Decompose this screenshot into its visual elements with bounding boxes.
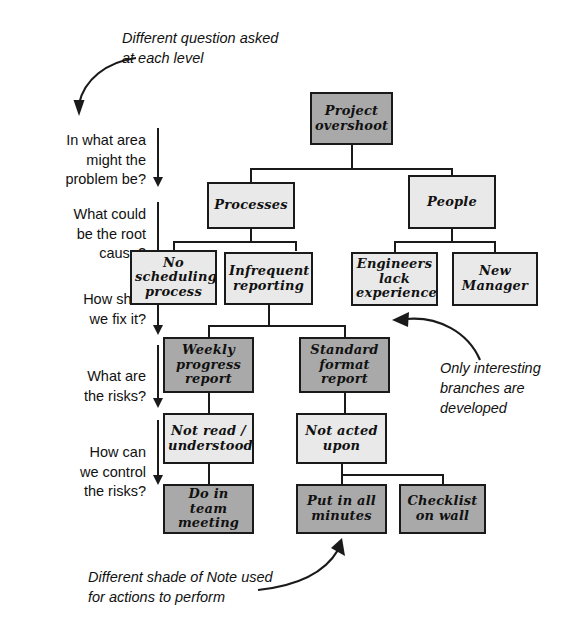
- node-label: Engineers lack experience: [356, 257, 433, 301]
- question-label-4: What are the risks?: [18, 367, 146, 406]
- node-put-in-all-minutes[interactable]: Put in all minutes: [296, 484, 387, 534]
- connector-people-stem: [451, 228, 453, 242]
- connector-weekly-to-notread: [208, 392, 210, 414]
- connector-standard-to-notacted: [344, 392, 346, 414]
- node-do-in-team-meeting[interactable]: Do in team meeting: [163, 484, 254, 534]
- node-label: Infrequent reporting: [229, 264, 308, 293]
- node-project-overshoot[interactable]: Project overshoot: [310, 92, 393, 145]
- node-not-read-understood[interactable]: Not read / understood: [163, 413, 254, 464]
- question-label-3: How shall we fix it?: [18, 290, 146, 329]
- node-no-scheduling-process[interactable]: No scheduling process: [130, 250, 217, 305]
- node-label: Project overshoot: [315, 104, 388, 133]
- node-standard-format-report[interactable]: Standard format report: [299, 337, 390, 393]
- node-label: Not acted upon: [301, 424, 382, 453]
- connector-to-putinall: [341, 474, 343, 484]
- node-new-manager[interactable]: New Manager: [452, 252, 538, 306]
- node-people[interactable]: People: [408, 175, 496, 229]
- connector-processes-stem: [250, 228, 252, 242]
- question-label-5: How can we control the risks?: [18, 443, 146, 502]
- node-label: Put in all minutes: [301, 494, 382, 523]
- annotation-only-interesting-branches: Only interesting branches are developed: [440, 358, 564, 418]
- annotation-different-question: Different question asked at each level: [122, 28, 278, 68]
- annotation-different-shade-of-note: Different shade of Note used for actions…: [88, 567, 338, 607]
- node-not-acted-upon[interactable]: Not acted upon: [296, 413, 387, 464]
- node-engineers-lack-experience[interactable]: Engineers lack experience: [351, 252, 438, 306]
- node-label: Checklist on wall: [404, 494, 481, 523]
- connector-fix-bus: [208, 325, 345, 327]
- connector-to-processes: [250, 168, 252, 182]
- connector-control-bus: [341, 474, 444, 476]
- connector-processes-bus: [173, 241, 297, 243]
- connector-notread-to-doin: [208, 463, 210, 484]
- connector-root-stem: [351, 145, 353, 169]
- node-infrequent-reporting[interactable]: Infrequent reporting: [224, 252, 313, 305]
- connector-level2-bus: [250, 168, 453, 170]
- node-label: New Manager: [457, 264, 533, 293]
- connector-to-new-manager: [494, 241, 496, 252]
- node-label: Standard format report: [304, 343, 385, 387]
- node-label: No scheduling process: [135, 256, 212, 300]
- diagram-canvas: Different question asked at each level I…: [0, 0, 564, 630]
- node-weekly-progress-report[interactable]: Weekly progress report: [163, 337, 254, 393]
- connector-infrequent-stem: [268, 305, 270, 326]
- node-label: Not read / understood: [168, 424, 249, 453]
- question-arrow-5: [157, 420, 159, 476]
- question-label-1: In what area might the problem be?: [18, 131, 146, 190]
- question-label-2: What could be the root cause?: [18, 205, 146, 264]
- question-arrow-4: [157, 345, 159, 399]
- node-checklist-on-wall[interactable]: Checklist on wall: [399, 484, 486, 534]
- node-label: Do in team meeting: [168, 487, 249, 531]
- connector-to-engineers: [394, 241, 396, 252]
- node-label: Weekly progress report: [168, 343, 249, 387]
- node-label: People: [413, 195, 491, 210]
- question-arrow-2: [157, 202, 159, 252]
- question-arrow-1: [157, 128, 159, 178]
- connector-to-infrequent: [295, 241, 297, 251]
- connector-people-bus: [394, 241, 495, 243]
- node-label: Processes: [212, 198, 290, 213]
- node-processes[interactable]: Processes: [207, 182, 295, 229]
- connector-to-checklist: [442, 474, 444, 484]
